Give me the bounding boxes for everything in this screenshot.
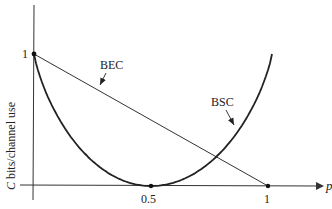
- x-tick-05: 0.5: [141, 192, 156, 206]
- bec-line: [34, 54, 268, 186]
- bsc-arrow-icon: [226, 110, 234, 125]
- bec-label: BEC: [100, 58, 123, 72]
- point-p-05: [149, 184, 153, 188]
- y-axis-label-rest: bits/channel use: [4, 102, 18, 182]
- y-axis-label: C bits/channel use: [4, 102, 18, 190]
- capacity-chart: 1 0.5 1 p C bits/channel use BEC BSC: [0, 0, 332, 209]
- x-axis-arrow-icon: [316, 182, 324, 190]
- x-axis-label: p: [325, 178, 332, 193]
- x-tick-1: 1: [264, 192, 270, 206]
- bec-arrow-icon: [100, 73, 106, 85]
- y-tick-1: 1: [22, 47, 28, 61]
- point-origin-top: [32, 52, 37, 57]
- bsc-label: BSC: [211, 95, 234, 109]
- x-axis: [20, 185, 322, 186]
- point-p-1: [266, 184, 270, 188]
- y-axis: [33, 5, 34, 200]
